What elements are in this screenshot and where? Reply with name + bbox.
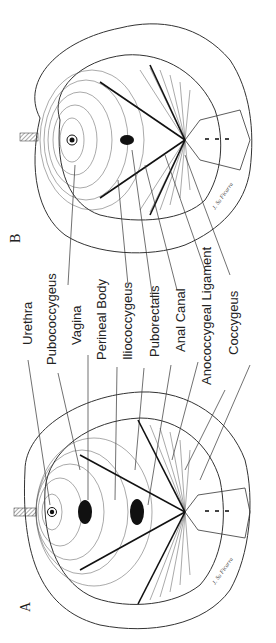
panel-a-coccyx (185, 488, 250, 538)
panel-b: B J. Su Ficarra (8, 24, 252, 253)
labels: Urethra Pubococcygeus Vagina Perineal Bo… (20, 247, 241, 385)
label-perineal-body: Perineal Body (94, 279, 109, 360)
panel-b-signature: J. Su Ficarra (211, 181, 234, 211)
label-coccygeus: Coccygeus (226, 290, 241, 355)
panel-b-levator-outline (58, 55, 221, 220)
panel-a-urethra-stub (14, 508, 36, 516)
label-iliococcygeus: Iliococcygeus (120, 281, 135, 360)
label-vagina: Vagina (69, 305, 84, 345)
panel-a-anal-canal (130, 499, 144, 525)
label-pubococcygeus: Pubococcygeus (44, 273, 59, 365)
label-anal-canal: Anal Canal (173, 288, 188, 352)
panel-a-letter: A (18, 601, 33, 612)
panel-a-fibers (36, 425, 190, 600)
panel-a: A J. Su Ficarra (14, 392, 250, 629)
pelvic-floor-figure: B J. Su Ficarra Urethra Pubococcygeus Va… (0, 0, 276, 643)
panel-a-vagina (78, 500, 92, 524)
label-anococcygeal-ligament: Anococcygeal Ligament (199, 247, 214, 385)
panel-b-letter: B (8, 234, 23, 243)
label-urethra: Urethra (20, 301, 35, 345)
panel-b-fibers (40, 68, 190, 212)
label-puborectalis: Puborectalis (147, 285, 162, 357)
panel-b-anal-canal (120, 135, 134, 145)
panel-b-urethra-stub (20, 133, 38, 141)
panel-a-signature: J. Su Ficarra (211, 556, 234, 586)
